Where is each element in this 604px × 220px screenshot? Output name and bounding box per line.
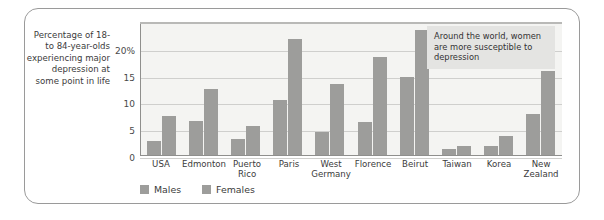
x-axis-labels: USAEdmontonPuerto RicoParisWest GermanyF… — [140, 159, 562, 180]
y-axis-tick-label: 10 — [124, 99, 135, 109]
chart-annotation: Around the world, women are more suscept… — [427, 26, 555, 69]
bar-group — [140, 24, 182, 156]
bar-males — [358, 122, 372, 156]
y-axis-tick-label: 0 — [129, 153, 135, 163]
x-axis-tick-label: West Germany — [310, 159, 352, 180]
x-axis-line — [140, 155, 562, 156]
bar-group — [351, 24, 393, 156]
x-axis-tick-label: Edmonton — [182, 159, 226, 180]
bar-females — [373, 57, 387, 156]
x-axis-tick-label: USA — [140, 159, 182, 180]
y-axis-tick-label: 20% — [115, 46, 135, 56]
y-axis-caption: Percentage of 18- to 84-year-olds experi… — [26, 30, 110, 87]
x-axis-tick-label: Beirut — [394, 159, 436, 180]
bar-group — [309, 24, 351, 156]
legend-item-females[interactable]: Females — [202, 184, 255, 195]
y-axis-tick-label: 5 — [129, 126, 135, 136]
x-axis-tick-label: Puerto Rico — [226, 159, 268, 180]
bar-females — [162, 116, 176, 156]
legend-item-males[interactable]: Males — [140, 184, 181, 195]
depression-chart-figure: Percentage of 18- to 84-year-olds experi… — [0, 0, 604, 220]
bar-males — [189, 121, 203, 156]
y-axis-tick-label: 15 — [124, 73, 135, 83]
bar-males — [315, 132, 329, 156]
bar-females — [246, 126, 260, 156]
legend-label: Males — [154, 184, 181, 195]
chart-legend: MalesFemales — [140, 184, 269, 195]
bar-males — [231, 139, 245, 156]
bar-group — [267, 24, 309, 156]
bar-males — [273, 100, 287, 156]
legend-swatch-icon — [140, 185, 149, 194]
bar-males — [400, 77, 414, 156]
bar-group — [182, 24, 224, 156]
x-axis-tick-label: Florence — [352, 159, 394, 180]
bar-females — [204, 89, 218, 156]
bar-males — [147, 141, 161, 156]
bar-females — [288, 39, 302, 156]
bar-females — [330, 84, 344, 156]
x-axis-tick-label: Korea — [478, 159, 520, 180]
x-axis-tick-label: Paris — [268, 159, 310, 180]
y-axis-line — [140, 24, 141, 156]
x-axis-tick-label: New Zealand — [520, 159, 562, 180]
legend-label: Females — [216, 184, 255, 195]
bar-males — [526, 114, 540, 156]
bar-females — [499, 136, 513, 156]
bar-females — [541, 71, 555, 156]
legend-swatch-icon — [202, 185, 211, 194]
x-axis-tick-label: Taiwan — [436, 159, 478, 180]
bar-group — [224, 24, 266, 156]
